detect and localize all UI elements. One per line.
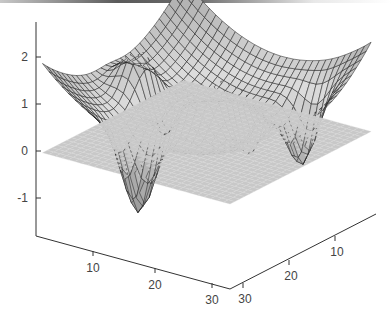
z-tick-label: -1 bbox=[17, 191, 28, 205]
y-tick-label: 10 bbox=[330, 245, 344, 259]
z-tick-label: 1 bbox=[21, 97, 28, 111]
x-tick-label: 10 bbox=[86, 261, 100, 275]
y-tick-label: 30 bbox=[238, 292, 252, 306]
x-tick-label: 20 bbox=[148, 278, 162, 292]
mesh-surface bbox=[43, 0, 372, 213]
x-tick-label: 30 bbox=[205, 293, 219, 307]
surface-plot: 210-1102030102030 bbox=[0, 0, 392, 319]
z-tick-label: 0 bbox=[21, 144, 28, 158]
x-axis-line bbox=[36, 236, 230, 289]
z-tick-label: 2 bbox=[21, 50, 28, 64]
y-tick-label: 20 bbox=[284, 269, 298, 283]
y-axis-line bbox=[230, 214, 376, 289]
